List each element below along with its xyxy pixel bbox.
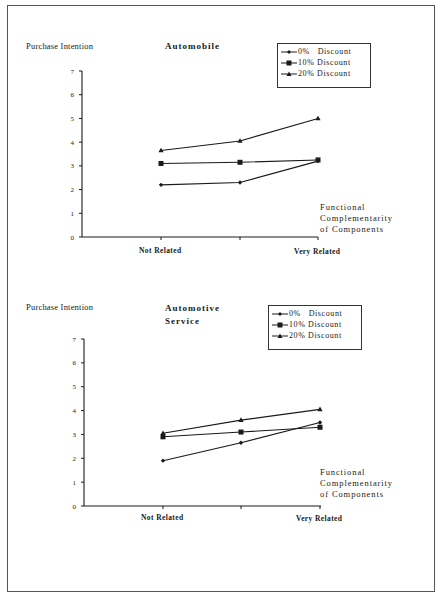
y-tick-label: 3 xyxy=(73,431,77,439)
x-tick-label-not-related: Not Related xyxy=(141,513,184,522)
x-tick-label-very-related: Very Related xyxy=(296,514,342,523)
y-tick-label: 4 xyxy=(73,407,77,415)
x-axis-label-line: of Components xyxy=(320,489,393,500)
diamond-marker-icon xyxy=(239,441,243,445)
square-marker-icon xyxy=(161,434,166,439)
y-tick-label: 2 xyxy=(73,455,77,463)
diamond-marker-icon xyxy=(318,420,322,424)
y-tick-label: 0 xyxy=(73,503,77,511)
y-tick-label: 7 xyxy=(73,336,77,344)
square-marker-icon xyxy=(239,430,244,435)
x-axis-label-line: Functional xyxy=(320,467,393,478)
x-axis-label: Functional Complementarity of Components xyxy=(320,467,393,500)
chart-automotive-service: Purchase Intention Automotive Service 0%… xyxy=(0,0,446,290)
x-axis-label-line: Complementarity xyxy=(320,478,393,489)
plot-area: 01234567 xyxy=(0,0,446,601)
y-tick-label: 6 xyxy=(73,359,77,367)
square-marker-icon xyxy=(318,425,323,430)
y-tick-label: 1 xyxy=(73,479,77,487)
y-tick-label: 5 xyxy=(73,383,77,391)
diamond-marker-icon xyxy=(161,458,165,462)
triangle-marker-icon xyxy=(317,407,322,412)
